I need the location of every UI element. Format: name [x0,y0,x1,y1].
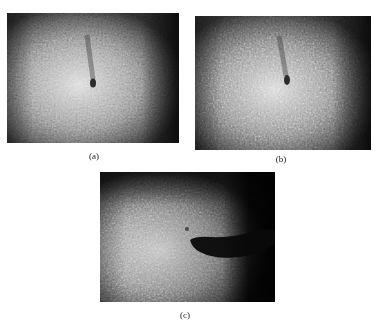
defect-spot-b [284,75,290,85]
speckle-image-b [195,16,371,150]
speckle-image-a [7,13,179,143]
defect-spot-a [90,79,96,88]
caption-a: (a) [79,151,109,161]
caption-b: (b) [266,154,296,164]
caption-c: (c) [170,310,200,320]
figure-panel-a [7,13,179,143]
figure-panel-b [195,16,371,150]
figure-panel-c [100,172,275,302]
speckle-image-c [100,172,275,302]
